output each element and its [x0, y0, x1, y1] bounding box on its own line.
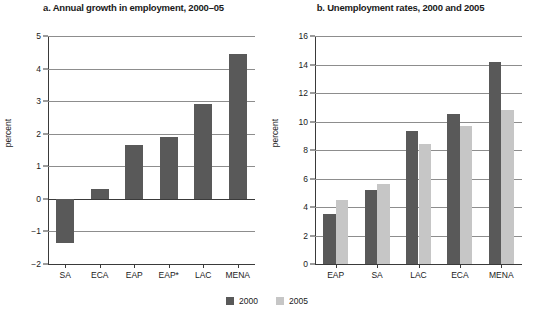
panel-a-title: a. Annual growth in employment, 2000–05 — [0, 2, 267, 13]
x-tick-label: EAP — [327, 270, 344, 280]
y-tick-label: 14 — [299, 60, 315, 70]
x-tick-mark — [377, 264, 378, 268]
legend-item: 2000 — [226, 296, 258, 306]
bar — [460, 126, 472, 264]
bar — [406, 131, 418, 264]
legend-label: 2005 — [289, 296, 308, 306]
panel-a-bars — [48, 36, 255, 264]
bar — [447, 114, 459, 264]
y-tick-label: 4 — [36, 64, 48, 74]
y-tick-label: 2 — [36, 129, 48, 139]
y-tick-label: 10 — [299, 117, 315, 127]
legend-swatch — [276, 297, 284, 305]
y-tick-label: 2 — [303, 231, 315, 241]
chart-legend: 20002005 — [0, 296, 534, 306]
panel-b-title: b. Unemployment rates, 2000 and 2005 — [267, 2, 534, 13]
x-tick-label: MENA — [489, 270, 514, 280]
legend-swatch — [226, 297, 234, 305]
y-tick-label: 0 — [36, 194, 48, 204]
bar — [91, 189, 109, 199]
x-tick-label: ECA — [91, 270, 108, 280]
bar — [323, 214, 335, 264]
legend-label: 2000 — [239, 296, 258, 306]
x-tick-label: ECA — [451, 270, 468, 280]
x-tick-label: EAP* — [159, 270, 179, 280]
bar — [377, 184, 389, 264]
bar — [336, 200, 348, 264]
y-tick-label: 0 — [303, 259, 315, 269]
bar — [194, 104, 212, 198]
bar — [489, 62, 501, 264]
y-tick-label: 5 — [36, 31, 48, 41]
y-tick-label: 16 — [299, 31, 315, 41]
y-tick-label: 4 — [303, 202, 315, 212]
panel-b-bars — [315, 36, 522, 264]
y-tick-label: 12 — [299, 88, 315, 98]
x-tick-mark — [169, 264, 170, 268]
y-tick-label: −1 — [31, 226, 48, 236]
panel-a-y-axis-label: percent — [3, 119, 13, 147]
bar — [419, 144, 431, 264]
y-tick-label: 8 — [303, 145, 315, 155]
x-tick-label: LAC — [195, 270, 212, 280]
panel-b-plot-area: 0246810121416 EAPSALACECAMENA — [315, 36, 522, 264]
bar — [365, 190, 377, 264]
x-tick-mark — [501, 264, 502, 268]
y-tick-label: 3 — [36, 96, 48, 106]
figure-container: a. Annual growth in employment, 2000–05 … — [0, 0, 534, 321]
x-tick-label: LAC — [410, 270, 427, 280]
x-tick-mark — [336, 264, 337, 268]
panel-a-x-axis-labels: SAECAEAPEAP*LACMENA — [48, 264, 255, 286]
bar — [229, 54, 247, 199]
x-tick-mark — [419, 264, 420, 268]
bar — [160, 137, 178, 199]
x-tick-label: SA — [371, 270, 382, 280]
x-tick-mark — [203, 264, 204, 268]
x-tick-mark — [134, 264, 135, 268]
y-tick-label: 6 — [303, 174, 315, 184]
x-tick-mark — [100, 264, 101, 268]
legend-item: 2005 — [276, 296, 308, 306]
x-tick-mark — [460, 264, 461, 268]
x-tick-mark — [65, 264, 66, 268]
chart-panel-b: b. Unemployment rates, 2000 and 2005 per… — [267, 0, 534, 292]
panel-a-plot-area: −2−1012345 SAECAEAPEAP*LACMENA — [48, 36, 255, 264]
panel-b-y-axis-label: percent — [270, 119, 280, 147]
bar — [125, 145, 143, 199]
bar — [56, 199, 74, 243]
x-tick-label: EAP — [126, 270, 143, 280]
x-tick-label: SA — [60, 270, 71, 280]
x-tick-label: MENA — [225, 270, 250, 280]
y-tick-label: 1 — [36, 161, 48, 171]
panel-b-x-axis-labels: EAPSALACECAMENA — [315, 264, 522, 286]
x-tick-mark — [238, 264, 239, 268]
y-tick-label: −2 — [31, 259, 48, 269]
bar — [501, 110, 513, 264]
chart-panel-a: a. Annual growth in employment, 2000–05 … — [0, 0, 267, 292]
